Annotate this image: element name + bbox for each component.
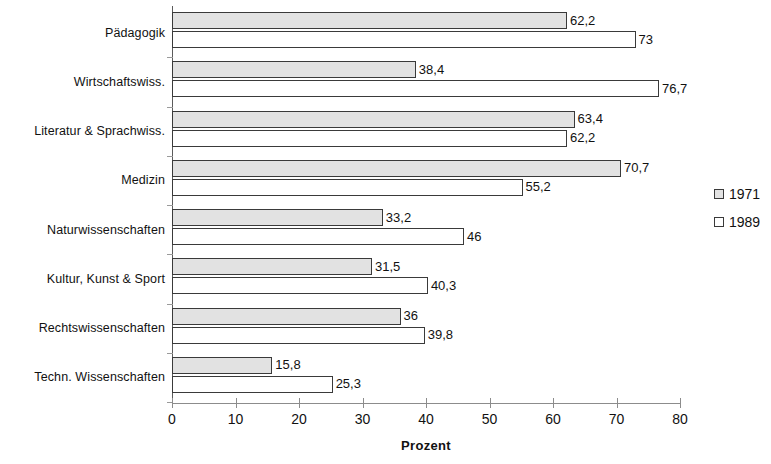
bar-value-label: 25,3 — [336, 376, 361, 391]
bar-1971-p-dagogik: 62,2 — [172, 12, 567, 29]
bar-value-label: 31,5 — [375, 259, 400, 274]
chart-category-row: Literatur & Sprachwiss.63,462,2 — [172, 107, 680, 156]
category-label: Wirtschaftswiss. — [74, 75, 165, 89]
x-axis-tick — [553, 398, 554, 408]
bar-1971-techn-wissenschaften: 15,8 — [172, 357, 272, 374]
bar-1989-medizin: 55,2 — [172, 179, 523, 196]
bar-1971-naturwissenschaften: 33,2 — [172, 209, 383, 226]
bar-value-label: 46 — [467, 229, 481, 244]
bar-value-label: 39,8 — [428, 327, 453, 342]
x-axis-tick — [236, 398, 237, 408]
x-axis-tick-label: 50 — [482, 411, 498, 427]
bar-value-label: 62,2 — [570, 130, 595, 145]
bar-1971-literatur-sprachwiss: 63,4 — [172, 111, 575, 128]
bar-value-label: 70,7 — [624, 160, 649, 175]
chart-legend: 19711989 — [714, 186, 771, 242]
bar-1971-kultur-kunst-sport: 31,5 — [172, 258, 372, 275]
chart-category-row: Techn. Wissenschaften15,825,3 — [172, 353, 680, 402]
bar-value-label: 15,8 — [275, 357, 300, 372]
x-axis-tick-label: 0 — [168, 411, 176, 427]
x-axis-tick-label: 30 — [355, 411, 371, 427]
x-axis-tick-label: 60 — [545, 411, 561, 427]
x-axis-tick — [172, 398, 173, 408]
chart-category-row: Kultur, Kunst & Sport31,540,3 — [172, 254, 680, 303]
legend-label: 1989 — [729, 214, 760, 230]
bar-value-label: 36 — [404, 308, 418, 323]
bar-chart: Pädagogik62,273Wirtschaftswiss.38,476,7L… — [0, 0, 771, 464]
chart-category-row: Naturwissenschaften33,246 — [172, 205, 680, 254]
chart-category-row: Wirtschaftswiss.38,476,7 — [172, 57, 680, 106]
category-label: Medizin — [121, 173, 165, 187]
x-axis-tick — [426, 398, 427, 408]
legend-item-1989: 1989 — [714, 214, 771, 230]
bar-1971-medizin: 70,7 — [172, 160, 621, 177]
chart-category-row: Medizin70,755,2 — [172, 156, 680, 205]
bar-1989-kultur-kunst-sport: 40,3 — [172, 277, 428, 294]
bar-1989-rechtswissenschaften: 39,8 — [172, 327, 425, 344]
x-axis-tick-label: 70 — [609, 411, 625, 427]
bar-1989-wirtschaftswiss: 76,7 — [172, 80, 659, 97]
x-axis-tick — [363, 398, 364, 408]
plot-area: Pädagogik62,273Wirtschaftswiss.38,476,7L… — [172, 8, 680, 402]
category-label: Kultur, Kunst & Sport — [47, 272, 165, 286]
x-axis-tick-label: 40 — [418, 411, 434, 427]
chart-category-row: Pädagogik62,273 — [172, 8, 680, 57]
category-label: Techn. Wissenschaften — [34, 370, 165, 384]
bar-1971-wirtschaftswiss: 38,4 — [172, 61, 416, 78]
x-axis-tick — [490, 398, 491, 408]
legend-label: 1971 — [729, 186, 760, 202]
bar-value-label: 76,7 — [662, 81, 687, 96]
category-label: Literatur & Sprachwiss. — [34, 124, 165, 138]
bar-value-label: 62,2 — [570, 13, 595, 28]
bar-value-label: 33,2 — [386, 210, 411, 225]
legend-swatch-icon — [714, 217, 724, 227]
chart-category-row: Rechtswissenschaften3639,8 — [172, 304, 680, 353]
category-label: Pädagogik — [105, 26, 165, 40]
bar-1989-p-dagogik: 73 — [172, 31, 636, 48]
x-axis-tick — [680, 398, 681, 408]
x-axis-tick-label: 10 — [228, 411, 244, 427]
bar-1989-naturwissenschaften: 46 — [172, 228, 464, 245]
bar-value-label: 63,4 — [578, 111, 603, 126]
category-label: Rechtswissenschaften — [39, 321, 165, 335]
x-axis-tick-label: 80 — [672, 411, 688, 427]
x-axis-title: Prozent — [172, 438, 680, 453]
bar-value-label: 40,3 — [431, 278, 456, 293]
bar-1971-rechtswissenschaften: 36 — [172, 308, 401, 325]
bar-value-label: 73 — [639, 32, 653, 47]
x-axis-tick — [299, 398, 300, 408]
bar-1989-techn-wissenschaften: 25,3 — [172, 376, 333, 393]
bar-value-label: 38,4 — [419, 62, 444, 77]
legend-item-1971: 1971 — [714, 186, 771, 202]
category-label: Naturwissenschaften — [47, 223, 165, 237]
x-axis-tick — [617, 398, 618, 408]
bar-1989-literatur-sprachwiss: 62,2 — [172, 130, 567, 147]
legend-swatch-icon — [714, 189, 724, 199]
x-axis-tick-label: 20 — [291, 411, 307, 427]
bar-value-label: 55,2 — [526, 179, 551, 194]
